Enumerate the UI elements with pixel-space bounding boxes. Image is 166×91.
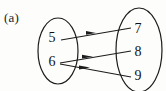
arrow-6-to-9 <box>60 64 131 77</box>
codomain-element-7: 7 <box>135 22 142 36</box>
codomain-element-8: 8 <box>135 45 142 59</box>
arrow-line <box>60 51 131 63</box>
domain-oval <box>38 18 78 84</box>
arrow-line <box>60 64 131 77</box>
arrow-line <box>61 28 131 40</box>
mapping-diagram-figure: (a) 5 6 7 8 9 <box>0 0 166 91</box>
domain-element-5: 5 <box>49 31 56 45</box>
arrow-6-to-8 <box>60 51 131 63</box>
domain-element-6: 6 <box>49 55 56 69</box>
arrow-5-to-7 <box>61 28 131 40</box>
codomain-element-9: 9 <box>135 69 142 83</box>
